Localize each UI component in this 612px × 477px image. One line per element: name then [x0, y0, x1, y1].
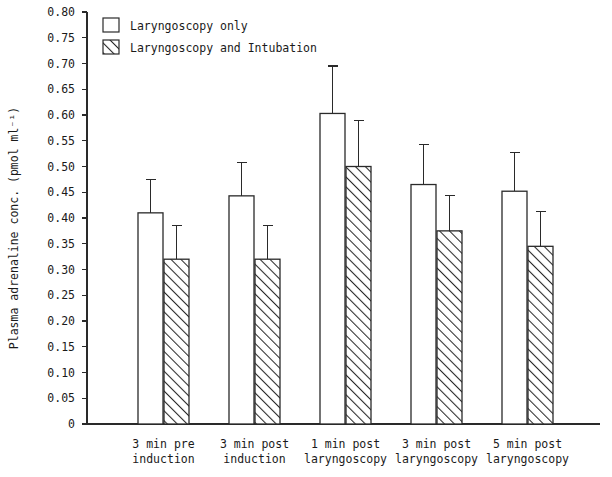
y-tick-label: 0.20: [47, 314, 75, 328]
bar-laryngoscopy-only: [411, 185, 436, 424]
x-axis-labels: 3 min preinduction3 min postinduction1 m…: [132, 437, 569, 466]
bar-laryngoscopy-only: [320, 113, 345, 424]
error-bar: [237, 162, 247, 195]
y-tick-label: 0.65: [47, 82, 75, 96]
error-bar: [146, 179, 156, 212]
y-axis-ticks: 0.800.750.700.650.600.550.500.450.400.35…: [47, 5, 87, 431]
x-tick-label-line: induction: [223, 452, 285, 466]
error-bar: [419, 144, 429, 184]
bar-laryngoscopy-only: [502, 191, 527, 424]
error-bar: [328, 66, 338, 113]
y-axis-title: Plasma adrenaline conc. (pmol ml⁻¹): [7, 107, 21, 349]
legend-swatch-open: [103, 18, 119, 32]
y-tick-label: 0.10: [47, 366, 75, 380]
y-tick-label: 0: [68, 417, 75, 431]
bar-laryngoscopy-and-intubation: [528, 246, 553, 424]
chart-container: Plasma adrenaline conc. (pmol ml⁻¹) 0.80…: [0, 0, 612, 477]
y-tick-label: 0.40: [47, 211, 75, 225]
y-tick-label: 0.75: [47, 31, 75, 45]
legend-label: Laryngoscopy only: [130, 19, 248, 33]
error-bar: [354, 120, 364, 166]
error-bar: [263, 226, 273, 259]
legend-label: Laryngoscopy and Intubation: [130, 41, 317, 55]
error-bar: [536, 212, 546, 247]
x-tick-label-line: 1 min post: [311, 437, 380, 451]
y-tick-label: 0.80: [47, 5, 75, 19]
x-tick-label-line: induction: [132, 452, 194, 466]
error-bar: [445, 196, 455, 231]
bar-chart: Plasma adrenaline conc. (pmol ml⁻¹) 0.80…: [0, 0, 612, 477]
bar-laryngoscopy-and-intubation: [255, 259, 280, 424]
bar-laryngoscopy-and-intubation: [164, 259, 189, 424]
chart-legend: Laryngoscopy onlyLaryngoscopy and Intuba…: [103, 18, 317, 55]
bar-laryngoscopy-only: [229, 196, 254, 424]
y-tick-label: 0.30: [47, 263, 75, 277]
x-tick-label-line: 3 min post: [220, 437, 289, 451]
x-tick-label-line: 5 min post: [493, 437, 562, 451]
bar-laryngoscopy-and-intubation: [437, 231, 462, 424]
y-tick-label: 0.55: [47, 134, 75, 148]
bar-laryngoscopy-only: [138, 213, 163, 424]
error-bar: [510, 153, 520, 192]
y-tick-label: 0.50: [47, 160, 75, 174]
y-tick-label: 0.70: [47, 57, 75, 71]
x-tick-label-line: laryngoscopy: [304, 452, 387, 466]
y-axis-title-text: Plasma adrenaline conc. (pmol ml⁻¹): [7, 107, 21, 349]
y-tick-label: 0.25: [47, 288, 75, 302]
y-tick-label: 0.45: [47, 185, 75, 199]
y-tick-label: 0.60: [47, 108, 75, 122]
chart-bars: [138, 113, 553, 424]
x-tick-label-line: laryngoscopy: [486, 452, 569, 466]
error-bar: [172, 226, 182, 259]
y-tick-label: 0.15: [47, 340, 75, 354]
legend-swatch-hatched: [103, 40, 119, 54]
y-tick-label: 0.35: [47, 237, 75, 251]
x-tick-label-line: laryngoscopy: [395, 452, 478, 466]
bar-laryngoscopy-and-intubation: [346, 167, 371, 425]
x-tick-label-line: 3 min post: [402, 437, 471, 451]
y-tick-label: 0.05: [47, 391, 75, 405]
x-tick-label-line: 3 min pre: [132, 437, 194, 451]
